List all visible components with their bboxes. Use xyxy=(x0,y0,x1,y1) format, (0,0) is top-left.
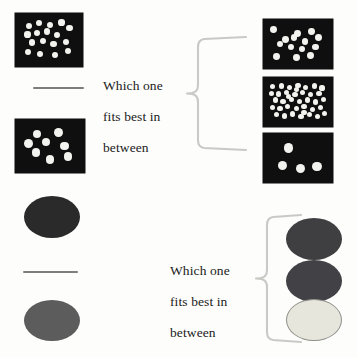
dot xyxy=(313,99,318,104)
dot xyxy=(312,44,319,51)
dot xyxy=(301,104,306,109)
dot xyxy=(24,31,30,37)
dot xyxy=(29,39,35,45)
dot xyxy=(280,99,285,104)
anchor-separator-rule-bottom xyxy=(23,271,78,273)
dot-panel-option-a[interactable] xyxy=(263,19,333,69)
dot xyxy=(64,152,73,161)
dot xyxy=(297,99,302,104)
prompt-bottom-line-3: between xyxy=(170,325,252,341)
dot xyxy=(315,34,322,41)
prompt-bottom-line-2: fits best in xyxy=(170,294,252,310)
dot xyxy=(303,85,308,90)
ellipse-option-c[interactable] xyxy=(286,299,342,341)
dot xyxy=(273,97,278,102)
dot xyxy=(294,87,299,92)
dot xyxy=(47,22,53,28)
dot xyxy=(299,46,306,53)
dot xyxy=(282,113,287,118)
dot xyxy=(274,112,279,117)
dot xyxy=(277,106,282,111)
dot xyxy=(279,83,284,88)
dot xyxy=(308,28,315,35)
dot xyxy=(24,139,33,148)
dot xyxy=(54,128,63,137)
dot xyxy=(58,19,64,25)
dot xyxy=(318,105,323,110)
dot xyxy=(296,164,305,173)
dot xyxy=(65,48,71,54)
dot xyxy=(66,25,72,31)
prompt-top-line-1: Which one xyxy=(103,78,183,94)
dot xyxy=(321,97,326,102)
dot xyxy=(34,30,40,36)
dot xyxy=(290,111,295,116)
dot xyxy=(294,106,299,111)
dot xyxy=(278,161,287,170)
dot xyxy=(307,112,312,117)
dot xyxy=(44,28,50,34)
ellipse-option-a[interactable] xyxy=(286,218,342,260)
dot xyxy=(276,91,281,96)
dot xyxy=(312,83,317,88)
anchor-separator-rule-top xyxy=(33,87,84,89)
dot xyxy=(270,84,275,89)
dot-panel-option-c[interactable] xyxy=(263,133,333,183)
dot xyxy=(305,97,310,102)
dot xyxy=(316,91,321,96)
dot-panel-anchor-dense xyxy=(15,13,83,67)
dot xyxy=(26,23,32,29)
dot xyxy=(307,52,314,59)
dot xyxy=(292,92,297,97)
dot xyxy=(46,155,55,164)
worksheet-canvas: Which one fits best in between Which one… xyxy=(0,0,357,358)
dot xyxy=(293,54,300,61)
dot xyxy=(32,148,41,157)
dot xyxy=(312,162,321,171)
prompt-top-line-3: between xyxy=(103,140,183,156)
prompt-top-line-2: fits best in xyxy=(103,109,183,125)
dot xyxy=(270,26,277,33)
dot xyxy=(270,105,275,110)
dot xyxy=(284,143,293,152)
dot xyxy=(302,38,309,45)
dot xyxy=(63,39,69,45)
prompt-text-top: Which one fits best in between xyxy=(103,62,183,171)
dot xyxy=(40,38,46,44)
dot xyxy=(315,114,320,119)
dot xyxy=(285,104,290,109)
dot xyxy=(322,111,327,116)
dot xyxy=(50,41,56,47)
brace-top xyxy=(186,34,250,152)
dot xyxy=(273,53,280,60)
dot xyxy=(288,44,295,51)
dot xyxy=(52,52,58,58)
dot xyxy=(319,85,324,90)
dot xyxy=(277,41,284,48)
prompt-bottom-line-1: Which one xyxy=(170,263,252,279)
dot xyxy=(33,130,42,139)
dot xyxy=(37,51,43,57)
prompt-text-bottom: Which one fits best in between xyxy=(170,247,252,356)
dot xyxy=(310,107,315,112)
dot xyxy=(36,20,42,26)
ellipse-option-b[interactable] xyxy=(286,260,342,302)
ellipse-anchor-dark xyxy=(24,196,80,238)
dot-panel-option-b[interactable] xyxy=(263,77,333,127)
dot xyxy=(269,91,274,96)
ellipse-anchor-medium xyxy=(24,300,80,341)
dot xyxy=(54,32,60,38)
dot xyxy=(25,49,31,55)
dot xyxy=(291,34,298,41)
dot xyxy=(60,142,69,151)
dot xyxy=(300,90,305,95)
dot xyxy=(301,110,306,115)
dot xyxy=(42,138,51,147)
dot-panel-anchor-sparse xyxy=(15,119,85,173)
dot xyxy=(282,36,289,43)
